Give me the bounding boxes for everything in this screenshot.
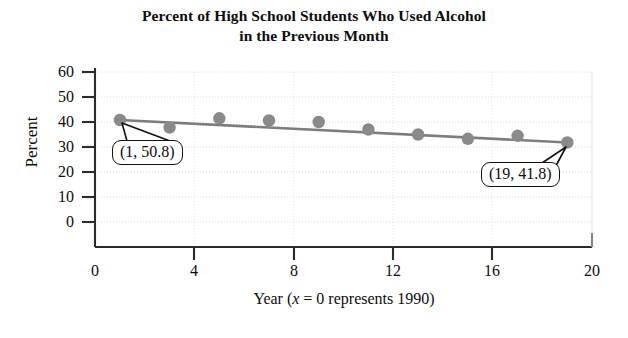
y-tick-marks xyxy=(82,72,95,222)
data-point xyxy=(163,121,175,133)
trend-line xyxy=(120,120,567,143)
vertical-gridlines xyxy=(194,72,492,247)
data-point xyxy=(313,116,325,128)
y-tick-label: 50 xyxy=(40,88,74,106)
data-point xyxy=(213,112,225,124)
y-tick-label: 20 xyxy=(40,163,74,181)
y-tick-label: 10 xyxy=(40,188,74,206)
y-tick-label: 30 xyxy=(40,138,74,156)
data-point xyxy=(462,133,474,145)
data-point xyxy=(362,123,374,135)
x-tick-label: 20 xyxy=(572,262,612,280)
x-tick-label: 16 xyxy=(472,262,512,280)
annotation-callout-second: (19, 41.8) xyxy=(481,162,560,187)
y-tick-label: 40 xyxy=(40,113,74,131)
x-tick-label: 12 xyxy=(373,262,413,280)
x-tick-label: 0 xyxy=(75,262,115,280)
x-axis-title-suffix: = 0 represents 1990) xyxy=(299,290,434,307)
x-tick-label: 8 xyxy=(274,262,314,280)
annotation-callout-first: (1, 50.8) xyxy=(112,140,183,165)
data-point xyxy=(511,130,523,142)
y-axis-title: Percent xyxy=(22,92,42,192)
data-point xyxy=(263,114,275,126)
y-tick-label: 60 xyxy=(40,63,74,81)
x-axis-title-prefix: Year ( xyxy=(253,290,292,307)
y-tick-label: 0 xyxy=(40,213,74,231)
chart-figure: Percent of High School Students Who Used… xyxy=(0,0,628,338)
data-point xyxy=(561,136,573,148)
x-axis-title: Year (x = 0 represents 1990) xyxy=(95,290,593,308)
data-point xyxy=(412,128,424,140)
x-tick-label: 4 xyxy=(174,262,214,280)
x-tick-marks xyxy=(194,247,492,260)
